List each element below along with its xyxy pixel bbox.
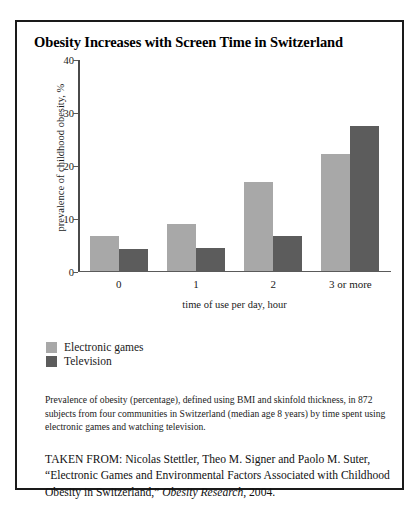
y-axis-tick-mark — [73, 166, 78, 167]
bar-television — [273, 236, 302, 270]
x-axis-title: time of use per day, hour — [80, 299, 389, 310]
y-axis-tick-labels: 010203040 — [34, 60, 74, 300]
y-axis-tick-mark — [73, 60, 78, 61]
bar-electronic-games — [321, 154, 350, 271]
legend-label: Television — [64, 355, 112, 367]
bar-group — [235, 60, 312, 271]
bar-group — [312, 60, 389, 271]
legend-item: Electronic games — [46, 341, 144, 353]
y-axis-tick-mark — [73, 113, 78, 114]
bar-electronic-games — [244, 182, 273, 271]
figure-frame: Obesity Increases with Screen Time in Sw… — [15, 20, 404, 490]
bar-group — [80, 60, 157, 271]
bar-television — [196, 248, 225, 271]
figure-caption: Prevalence of obesity (percentage), defi… — [45, 393, 400, 434]
x-axis-tick-label: 0 — [80, 278, 157, 290]
bar-electronic-games — [90, 236, 119, 270]
bar-group — [157, 60, 234, 271]
figure-source: TAKEN FROM: Nicolas Stettler, Theo M. Si… — [45, 452, 405, 501]
legend-label: Electronic games — [64, 341, 144, 353]
y-axis-tick-label: 0 — [46, 267, 74, 278]
x-axis-tick-label: 1 — [157, 278, 234, 290]
legend-swatch-icon — [46, 342, 57, 353]
chart-plot-area: prevalence of childhood obesity, % 01020… — [34, 60, 389, 300]
figure-title: Obesity Increases with Screen Time in Sw… — [34, 34, 389, 51]
x-axis-line — [78, 271, 391, 273]
y-axis-tick-label: 30 — [46, 108, 74, 119]
y-axis-tick-label: 10 — [46, 214, 74, 225]
source-suffix: , 2004. — [243, 486, 275, 499]
x-axis-tick-label: 3 or more — [312, 278, 389, 290]
x-axis-tick-labels: 0123 or more — [80, 278, 389, 290]
legend-swatch-icon — [46, 356, 57, 367]
y-axis-tick-mark — [73, 219, 78, 220]
bar-groups — [80, 60, 389, 271]
x-axis-tick-label: 2 — [235, 278, 312, 290]
bar-television — [350, 126, 379, 271]
y-axis-tick-label: 20 — [46, 161, 74, 172]
legend-item: Television — [46, 355, 144, 367]
bar-electronic-games — [167, 224, 196, 271]
source-journal: Obesity Research — [162, 486, 243, 499]
chart-legend: Electronic gamesTelevision — [46, 341, 144, 369]
y-axis-tick-label: 40 — [46, 55, 74, 66]
chart-axes — [78, 60, 389, 272]
y-axis-tick-mark — [73, 272, 78, 273]
bar-television — [119, 249, 148, 270]
